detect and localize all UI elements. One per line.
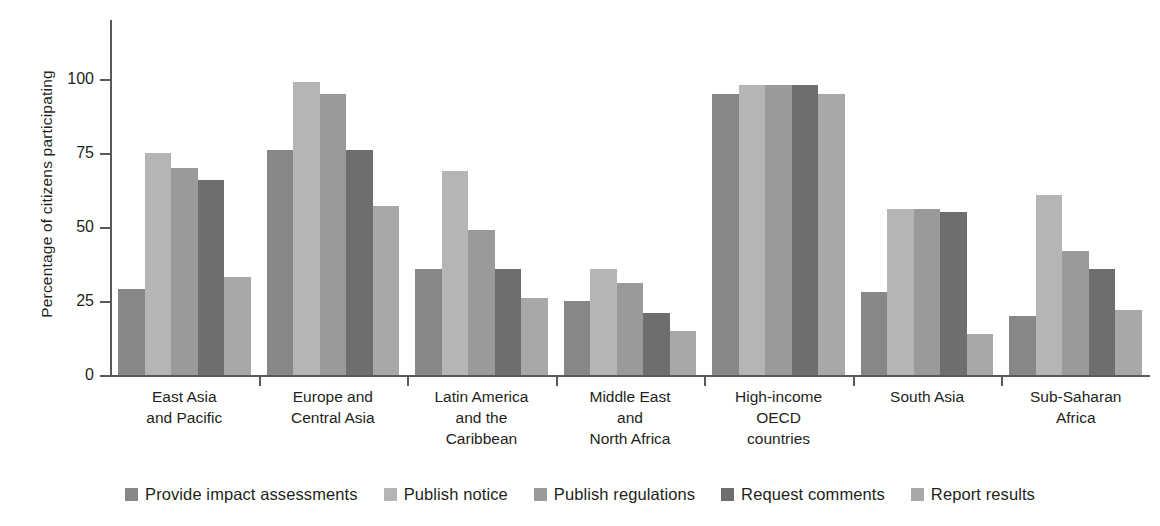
category-label-line: Africa [1001,407,1150,428]
category-label-line: Sub-Saharan [1001,386,1150,407]
bar [1062,251,1089,375]
category-label-line: Latin America [407,386,556,407]
legend-swatch-icon [911,488,924,501]
legend-item[interactable]: Request comments [721,485,885,504]
bar [415,269,442,376]
y-axis-tick-label: 0 [85,366,94,384]
bar-group [564,20,697,375]
legend-label: Report results [931,485,1035,504]
bar [1115,310,1142,375]
y-axis-tick-label: 25 [76,292,94,310]
category-label-line: Caribbean [407,428,556,449]
category-label-line: Central Asia [259,407,408,428]
legend-swatch-icon [384,488,397,501]
category-label-line: and the [407,407,556,428]
x-axis-category-label: Europe andCentral Asia [259,386,408,428]
bar [373,206,400,375]
x-axis-category-label: Latin Americaand theCaribbean [407,386,556,449]
category-label-line: countries [704,428,853,449]
legend-item[interactable]: Provide impact assessments [125,485,358,504]
x-axis-category-label: Middle EastandNorth Africa [556,386,705,449]
category-label-line: East Asia [110,386,259,407]
y-axis-tick-label: 75 [76,144,94,162]
bar [145,153,172,375]
bar [267,150,294,375]
category-label-line: Europe and [259,386,408,407]
y-axis-tick-label: 100 [67,70,94,88]
bar [564,301,591,375]
legend-label: Publish notice [404,485,508,504]
bar [346,150,373,375]
x-axis-category-label: Sub-SaharanAfrica [1001,386,1150,428]
bar [914,209,941,375]
category-label-line: Middle East [556,386,705,407]
bar [792,85,819,375]
bar-group [1009,20,1142,375]
bar [1089,269,1116,376]
x-axis-category-label: East Asiaand Pacific [110,386,259,428]
legend-item[interactable]: Publish regulations [534,485,695,504]
bar [590,269,617,376]
plot-area [110,20,1150,375]
bar [670,331,697,375]
bar [320,94,347,375]
bar-group [118,20,251,375]
bar [198,180,225,375]
legend-swatch-icon [125,488,138,501]
bar [521,298,548,375]
x-axis-category-label: High-incomeOECDcountries [704,386,853,449]
legend-item[interactable]: Report results [911,485,1035,504]
bar [765,85,792,375]
bar [861,292,888,375]
x-axis-tick [1001,377,1003,386]
bar [1036,195,1063,375]
chart-legend: Provide impact assessmentsPublish notice… [0,481,1160,507]
bar [739,85,766,375]
x-axis-tick [259,377,261,386]
category-label-line: and [556,407,705,428]
bar-group [267,20,400,375]
legend-label: Provide impact assessments [145,485,358,504]
x-axis-line [110,375,1150,377]
legend-item[interactable]: Publish notice [384,485,508,504]
legend-label: Publish regulations [554,485,695,504]
bar [293,82,320,375]
bar [967,334,994,375]
bar [617,283,644,375]
bar [495,269,522,376]
bar-group [712,20,845,375]
bar [712,94,739,375]
bar-group [861,20,994,375]
bar [442,171,469,375]
y-axis-tick-label: 50 [76,218,94,236]
category-label-line: North Africa [556,428,705,449]
x-axis-tick [853,377,855,386]
x-axis-tick [704,377,706,386]
category-label-line: High-income [704,386,853,407]
x-axis-tick [407,377,409,386]
chart-container: Percentage of citizens participating 025… [0,0,1160,526]
y-axis-title: Percentage of citizens participating [38,29,56,359]
bar [940,212,967,375]
bar [118,289,145,375]
x-axis-category-label: South Asia [853,386,1002,407]
x-axis-tick [556,377,558,386]
bar [468,230,495,375]
bar [643,313,670,375]
legend-swatch-icon [534,488,547,501]
x-axis-category-labels: East Asiaand PacificEurope andCentral As… [110,386,1150,471]
bar [224,277,251,375]
category-label-line: South Asia [853,386,1002,407]
category-label-line: OECD [704,407,853,428]
bar [1009,316,1036,375]
category-label-line: and Pacific [110,407,259,428]
legend-label: Request comments [741,485,885,504]
bar [887,209,914,375]
legend-swatch-icon [721,488,734,501]
bar [818,94,845,375]
bar-group [415,20,548,375]
bar [171,168,198,375]
